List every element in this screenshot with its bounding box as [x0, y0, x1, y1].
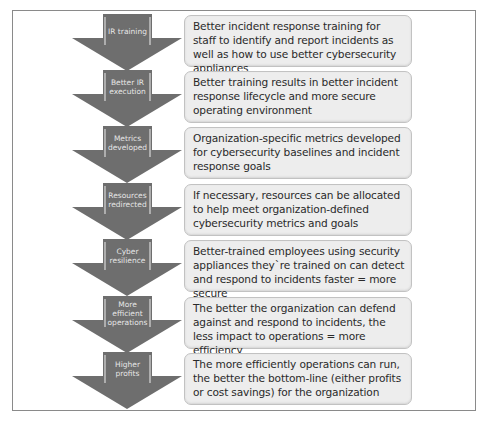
down-arrow-icon: Cyber resilience	[72, 239, 182, 296]
down-arrow-icon: Metrics developed	[72, 126, 182, 183]
process-step: Better IR execution Better training resu…	[0, 70, 486, 127]
step-description: The better the organization can defend a…	[184, 297, 412, 349]
process-step: Metrics developed Organization-specific …	[0, 126, 486, 183]
step-description: Better incident response training for st…	[184, 15, 412, 67]
step-label: Resources redirected	[103, 185, 152, 215]
step-description: Better training results in better incide…	[184, 71, 412, 123]
down-arrow-icon: Higher profits	[72, 352, 182, 409]
step-label: Metrics developed	[103, 128, 152, 158]
step-label: Cyber resilience	[103, 241, 152, 271]
step-label: Better IR execution	[103, 72, 152, 102]
down-arrow-icon: IR training	[72, 14, 182, 71]
step-description: If necessary, resources can be allocated…	[184, 184, 412, 236]
step-description: Better-trained employees using security …	[184, 240, 412, 292]
process-step: Higher profits The more efficiently oper…	[0, 352, 486, 409]
step-description: Organization-specific metrics developed …	[184, 127, 412, 179]
down-arrow-icon: Resources redirected	[72, 183, 182, 240]
step-label: More efficient operations	[103, 297, 152, 330]
down-arrow-icon: Better IR execution	[72, 70, 182, 127]
process-step: IR training Better incident response tra…	[0, 14, 486, 71]
step-label: IR training	[103, 16, 152, 46]
process-step: More efficient operations The better the…	[0, 296, 486, 353]
process-step: Resources redirected If necessary, resou…	[0, 183, 486, 240]
down-arrow-icon: More efficient operations	[72, 296, 182, 353]
process-step: Cyber resilience Better-trained employee…	[0, 239, 486, 296]
step-label: Higher profits	[103, 354, 152, 384]
step-description: The more efficiently operations can run,…	[184, 353, 412, 405]
